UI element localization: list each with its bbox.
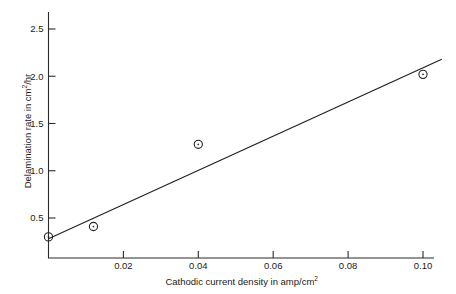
x-tick-marks bbox=[123, 251, 423, 258]
x-tick-label: 0.04 bbox=[189, 260, 208, 271]
y-axis-title-tail: /hr bbox=[22, 74, 33, 85]
data-point-markers bbox=[44, 70, 427, 241]
x-tick-label: 0.06 bbox=[264, 260, 283, 271]
y-tick-label: 0.5 bbox=[30, 212, 43, 223]
data-point bbox=[194, 140, 202, 148]
axes bbox=[49, 12, 435, 258]
x-axis-title-base: Cathodic current density in amp/cm bbox=[165, 276, 314, 287]
x-tick-label: 0.02 bbox=[114, 260, 133, 271]
data-point-center-dot bbox=[93, 226, 95, 228]
trend-line-group bbox=[49, 59, 442, 239]
y-axis-title: Delamination rate in cm2/hr bbox=[21, 74, 33, 189]
data-point bbox=[419, 70, 427, 78]
x-axis-title-exponent: 2 bbox=[314, 275, 318, 282]
scatter-plot: 0.020.040.060.080.10 0.51.01.52.02.5 Cat… bbox=[0, 0, 456, 294]
x-tick-label: 0.08 bbox=[339, 260, 358, 271]
x-tick-labels: 0.020.040.060.080.10 bbox=[114, 260, 432, 271]
x-axis-title: Cathodic current density in amp/cm2 bbox=[165, 275, 318, 287]
chart-figure: 0.020.040.060.080.10 0.51.01.52.02.5 Cat… bbox=[0, 0, 456, 294]
data-point-center-dot bbox=[197, 143, 199, 145]
data-point bbox=[89, 222, 97, 230]
data-point-center-dot bbox=[48, 236, 50, 238]
fitted-trend-line bbox=[49, 59, 442, 239]
data-point-center-dot bbox=[422, 74, 424, 76]
axis-lines bbox=[49, 12, 435, 258]
y-axis-title-text: Delamination rate in cm2/hr bbox=[21, 74, 33, 189]
y-tick-marks bbox=[49, 29, 56, 218]
y-tick-label: 2.5 bbox=[30, 23, 43, 34]
x-tick-label: 0.10 bbox=[414, 260, 433, 271]
y-axis-title-base: Delamination rate in cm bbox=[22, 88, 33, 188]
